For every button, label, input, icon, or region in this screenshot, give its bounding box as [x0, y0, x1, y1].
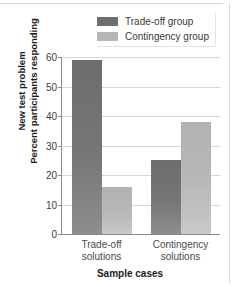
chart-legend: Trade-off group Contingency group — [97, 13, 216, 47]
y-axis-tick-mark — [58, 175, 62, 176]
bar — [72, 60, 102, 234]
x-axis-tick-label: Trade-offsolutions — [62, 239, 141, 263]
y-axis-tick-mark — [58, 234, 62, 235]
y-axis-tick-label: 10 — [46, 199, 57, 210]
gridline — [62, 57, 220, 58]
plot-area: 6050403020100Trade-offsolutionsContingen… — [62, 57, 220, 234]
legend-swatch-contingency-group — [97, 32, 118, 41]
y-axis-tick-mark — [58, 205, 62, 206]
y-axis-tick-label: 30 — [46, 140, 57, 151]
figure-right-border — [229, 3, 230, 284]
bar — [102, 187, 132, 234]
bar — [181, 122, 211, 234]
legend-label-trade-off-group: Trade-off group — [125, 16, 193, 27]
x-axis-tick-label-line: Trade-off — [62, 239, 141, 251]
y-axis-tick-label: 40 — [46, 111, 57, 122]
y-axis-tick-mark — [58, 116, 62, 117]
y-axis-title-line-2: Percent participants responding — [28, 18, 40, 164]
legend-item-trade-off-group: Trade-off group — [97, 14, 215, 29]
y-axis-title-line-1: New test problem — [16, 18, 28, 164]
y-axis-tick-label: 0 — [51, 229, 57, 240]
legend-item-contingency-group: Contingency group — [97, 29, 215, 44]
y-axis-title: New test problem Percent participants re… — [15, 1, 41, 181]
y-axis-tick-mark — [58, 146, 62, 147]
x-axis-tick-label-line: solutions — [141, 251, 220, 263]
y-axis-tick-mark — [58, 87, 62, 88]
legend-label-contingency-group: Contingency group — [125, 31, 209, 42]
y-axis-tick-label: 60 — [46, 52, 57, 63]
x-axis-tick-label-line: solutions — [62, 251, 141, 263]
bar — [151, 160, 181, 234]
y-axis-tick-mark — [58, 57, 62, 58]
x-axis-title: Sample cases — [42, 268, 218, 279]
y-axis-tick-label: 50 — [46, 81, 57, 92]
y-axis-tick-label: 20 — [46, 170, 57, 181]
x-axis-line — [61, 234, 220, 235]
x-axis-tick-label: Contingencysolutions — [141, 239, 220, 263]
x-axis-tick-label-line: Contingency — [141, 239, 220, 251]
bar-chart-figure: Trade-off group Contingency group New te… — [0, 0, 235, 287]
legend-swatch-trade-off-group — [97, 17, 118, 26]
